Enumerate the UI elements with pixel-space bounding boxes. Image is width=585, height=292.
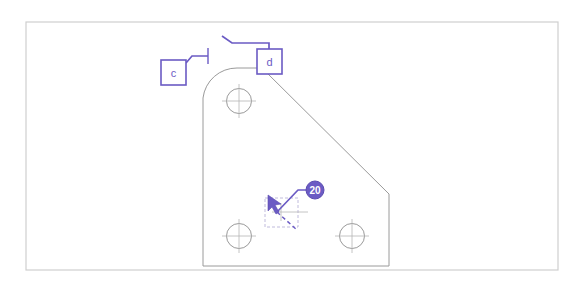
cad-drawing-view: c d 20	[0, 0, 585, 292]
part-geometry-group[interactable]	[203, 68, 389, 266]
annotation-label-c[interactable]: c	[161, 48, 208, 85]
leader-line-c	[186, 56, 208, 63]
drawing-canvas[interactable]: c d 20	[0, 0, 585, 292]
label-box-d-text: d	[266, 56, 272, 68]
leader-line-d	[222, 36, 269, 49]
callout-badge-label: 20	[309, 185, 321, 196]
label-box-c-text: c	[171, 67, 177, 79]
